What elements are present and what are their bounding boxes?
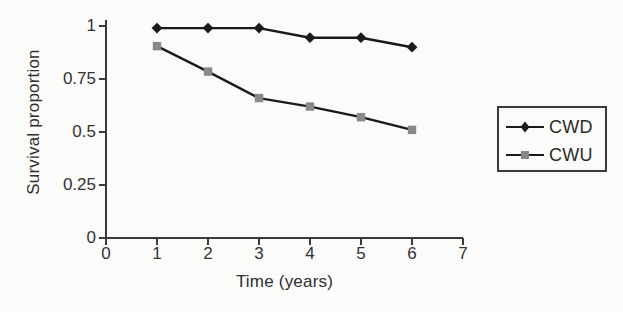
x-axis-tick-labels: 01234567 (0, 244, 623, 274)
legend-sample-cwu (505, 145, 545, 165)
x-tick-label: 5 (346, 244, 376, 264)
data-point-cwu (357, 113, 365, 121)
data-point-cwd (203, 23, 214, 34)
series-line-cwd (157, 28, 412, 47)
x-tick-label: 6 (397, 244, 427, 264)
legend-item-cwu: CWU (499, 144, 605, 166)
data-point-cwu (408, 126, 416, 134)
legend-item-cwd: CWD (499, 116, 605, 138)
data-point-cwu (204, 67, 212, 75)
data-point-cwd (254, 23, 265, 34)
survival-curve-figure: Survival proportion 00.250.50.751 012345… (0, 0, 623, 312)
series-line-cwu (157, 46, 412, 130)
x-tick-label: 3 (244, 244, 274, 264)
x-tick-label: 1 (142, 244, 172, 264)
data-point-cwd (305, 32, 316, 43)
data-series-group (152, 23, 418, 134)
x-tick-label: 4 (295, 244, 325, 264)
x-tick-label: 0 (91, 244, 121, 264)
x-tick-label: 2 (193, 244, 223, 264)
data-point-cwd (152, 23, 163, 34)
axis-ticks (99, 26, 463, 245)
data-point-cwd (407, 42, 418, 53)
legend-label-cwd: CWD (549, 117, 593, 138)
legend-box: CWD CWU (497, 106, 607, 172)
legend-label-cwu: CWU (549, 145, 593, 166)
data-point-cwu (153, 42, 161, 50)
x-axis-title: Time (years) (106, 272, 463, 292)
x-tick-label: 7 (448, 244, 478, 264)
legend-sample-cwd (505, 117, 545, 137)
data-point-cwu (255, 94, 263, 102)
data-point-cwu (306, 102, 314, 110)
data-point-cwd (356, 32, 367, 43)
